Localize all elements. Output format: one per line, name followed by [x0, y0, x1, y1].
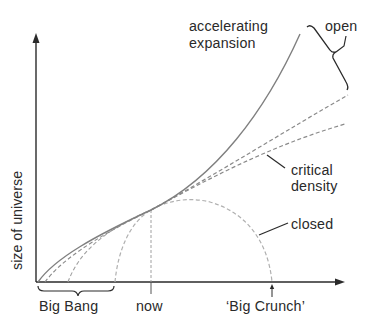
closed-leader	[259, 223, 288, 235]
open-early-curve	[45, 210, 151, 282]
critical-density-label-line1: critical	[291, 161, 333, 178]
critical-density-label-line2: density	[291, 177, 337, 194]
big-crunch-label: ‘Big Crunch’	[226, 297, 305, 314]
x-axis-arrow-icon	[335, 279, 345, 286]
big-bang-brace	[38, 286, 114, 296]
big-crunch-arrow-icon	[270, 284, 274, 297]
now-label: now	[136, 297, 163, 314]
open-brace-leader	[336, 36, 346, 52]
closed-label: closed	[291, 215, 333, 232]
y-axis-label: size of universe	[8, 171, 25, 270]
accelerating-expansion-curve	[38, 34, 300, 282]
y-axis	[33, 33, 40, 282]
open-brace	[307, 26, 348, 90]
closed-curve	[115, 200, 272, 282]
open-label: open	[325, 17, 357, 34]
x-axis	[36, 279, 345, 286]
accelerating-expansion-label-line2: expansion	[189, 34, 256, 51]
critical-density-leader	[267, 155, 285, 168]
y-axis-arrow-icon	[33, 33, 40, 43]
accelerating-expansion-label-line1: accelerating	[189, 17, 268, 34]
big-bang-label: Big Bang	[39, 297, 98, 314]
